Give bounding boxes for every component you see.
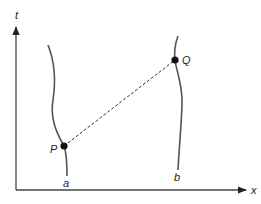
spacetime-diagram: t x a b P Q: [0, 0, 261, 204]
worldline-b-label: b: [174, 171, 180, 183]
t-axis-label: t: [15, 9, 19, 21]
pq-connector: [64, 60, 175, 146]
event-p-label: P: [50, 143, 58, 155]
x-axis-label: x: [250, 184, 257, 196]
event-q-dot: [171, 56, 178, 63]
event-q-label: Q: [182, 54, 191, 66]
worldline-a-label: a: [63, 177, 69, 189]
worldline-a: [48, 45, 67, 176]
worldline-b: [175, 36, 182, 170]
event-p-dot: [60, 142, 67, 149]
